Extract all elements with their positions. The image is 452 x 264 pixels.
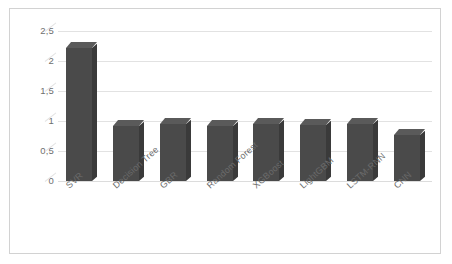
- bar-side-face: [186, 120, 191, 181]
- bar[interactable]: [66, 48, 92, 181]
- chart-plot-wrapper: 00,511,522,5 SVRDecision TreeGBRRandom F…: [10, 9, 442, 255]
- y-axis: 00,511,522,5: [16, 9, 54, 255]
- x-axis: SVRDecision TreeGBRRandom ForestXGBoostL…: [58, 183, 432, 253]
- bar-side-face: [139, 122, 144, 181]
- bar-side-face: [279, 120, 284, 181]
- chart-frame: 00,511,522,5 SVRDecision TreeGBRRandom F…: [9, 8, 441, 254]
- bar-side-face: [420, 131, 425, 181]
- bar-side-face: [233, 122, 238, 181]
- bar-side-face: [373, 120, 378, 181]
- bar-column[interactable]: [66, 48, 92, 181]
- bar-side-face: [92, 44, 97, 181]
- bar-side-face: [326, 121, 331, 181]
